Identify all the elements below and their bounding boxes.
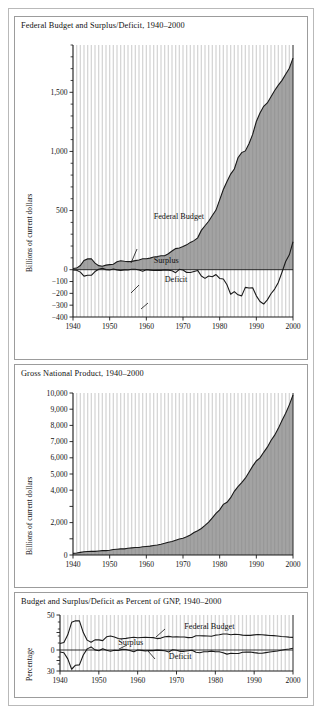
chart-panel-federal-budget: Federal Budget and Surplus/Deficit, 1940… — [14, 16, 308, 360]
x-tick-label: 1960 — [130, 676, 145, 685]
chart-canvas-percent-of-gnp: 500301940195019601970198019902000Federal… — [15, 593, 309, 699]
annotation-deficit: Deficit — [169, 652, 192, 661]
x-tick-label: 1970 — [169, 676, 184, 685]
x-tick-label: 1940 — [65, 560, 80, 569]
annotation-surplus: Surplus — [118, 638, 143, 647]
x-tick-label: 1990 — [249, 322, 264, 331]
x-tick-label: 1950 — [102, 322, 117, 331]
y-tick-label: 500 — [56, 206, 68, 215]
chart-canvas-gnp: 10,0009,0008,0007,0006,0005,0004,0002,00… — [15, 365, 309, 589]
chart-title-gnp: Gross National Product, 1940–2000 — [21, 369, 144, 378]
chart-canvas-federal-budget: 1,5001,0005000−100−200−300−4001940195019… — [15, 17, 309, 361]
gridlines-vertical — [60, 615, 293, 671]
y-tick-label: 1,500 — [50, 88, 67, 97]
y-tick-label: −400 — [52, 313, 68, 322]
x-tick-label: 1940 — [52, 676, 67, 685]
x-tick-label: 1950 — [102, 560, 117, 569]
chart-title-percent-of-gnp: Budget and Surplus/Deficit as Percent of… — [21, 597, 221, 606]
annotation-surplus: Surplus — [154, 256, 179, 265]
x-tick-label: 1970 — [175, 322, 190, 331]
x-tick-label: 1940 — [65, 322, 80, 331]
annotation-federal-budget: Federal Budget — [184, 622, 235, 631]
y-tick-label: 30 — [47, 667, 55, 676]
x-tick-label: 1970 — [175, 560, 190, 569]
y-tick-label: −100 — [52, 277, 68, 286]
x-tick-label: 1960 — [139, 560, 154, 569]
x-tick-label: 1990 — [247, 676, 262, 685]
y-axis-label-gnp: Billions of current dollars — [25, 477, 34, 555]
x-tick-label: 2000 — [285, 560, 300, 569]
y-tick-label: 6,000 — [50, 453, 67, 462]
y-axis-label-percent-of-gnp: Percentage — [25, 648, 34, 681]
y-tick-label: −300 — [52, 301, 68, 310]
x-tick-label: 2000 — [285, 676, 300, 685]
x-tick-label: 1980 — [208, 676, 223, 685]
y-tick-label: −200 — [52, 289, 68, 298]
y-tick-label: 0 — [64, 265, 68, 274]
chart-panel-percent-of-gnp: Budget and Surplus/Deficit as Percent of… — [14, 592, 308, 698]
annotation-deficit: Deficit — [165, 275, 188, 284]
x-tick-label: 1980 — [212, 322, 227, 331]
y-tick-label: 5,000 — [50, 470, 67, 479]
y-tick-label: 0 — [64, 551, 68, 560]
x-tick-label: 1950 — [91, 676, 106, 685]
x-tick-label: 1960 — [139, 322, 154, 331]
chart-title-federal-budget: Federal Budget and Surplus/Deficit, 1940… — [21, 21, 185, 30]
chart-panel-gnp: Gross National Product, 1940–2000 Billio… — [14, 364, 308, 588]
y-tick-label: 2,000 — [50, 518, 67, 527]
y-tick-label: 0 — [51, 646, 55, 655]
y-tick-label: 50 — [47, 611, 55, 620]
y-tick-label: 7,000 — [50, 437, 67, 446]
y-tick-label: 1,000 — [50, 147, 67, 156]
figure-page: Federal Budget and Surplus/Deficit, 1940… — [0, 0, 322, 714]
x-tick-label: 1990 — [249, 560, 264, 569]
x-tick-label: 1980 — [212, 560, 227, 569]
y-axis-label-federal-budget: Billions of current dollars — [25, 194, 34, 272]
y-tick-label: 10,000 — [47, 389, 68, 398]
x-tick-label: 2000 — [285, 322, 300, 331]
y-tick-label: 9,000 — [50, 405, 67, 414]
y-tick-label: 8,000 — [50, 421, 67, 430]
annotation-federal-budget: Federal Budget — [154, 212, 205, 221]
y-tick-label: 4,000 — [50, 486, 67, 495]
